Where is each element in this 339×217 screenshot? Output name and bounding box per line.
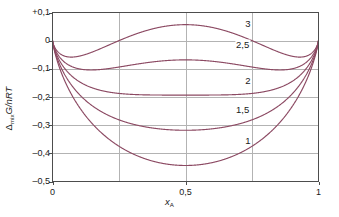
curve-label-xi-3: 3 bbox=[244, 18, 251, 27]
curve-label-xi-2-5: 2,5 bbox=[235, 40, 250, 49]
x-axis-title-sub: A bbox=[170, 201, 174, 208]
y-axis-title-text: ΔmixG/nRT bbox=[4, 86, 15, 130]
curve-label-xi-1-5: 1,5 bbox=[235, 105, 250, 114]
curve-labels: 32,521,51 bbox=[0, 0, 339, 217]
y-axis-title-rest: G/nRT bbox=[4, 86, 15, 114]
y-axis-title: ΔmixG/nRT bbox=[1, 58, 17, 158]
curve-label-xi-1: 1 bbox=[244, 135, 251, 144]
chart-figure: +0,10–0,1–0,2–0,3–0,4–0,5 00,51 32,521,5… bbox=[0, 0, 339, 217]
x-axis-title: xA bbox=[0, 196, 339, 207]
delta-symbol: Δ bbox=[4, 124, 15, 130]
curve-label-xi-2: 2 bbox=[244, 76, 251, 85]
delta-subscript: mix bbox=[8, 114, 15, 124]
